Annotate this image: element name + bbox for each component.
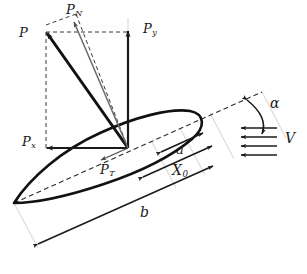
extension-lines	[14, 18, 286, 248]
label-tangential-force: PT	[100, 163, 115, 178]
freestream-flow-arrows	[241, 128, 277, 155]
label-velocity: V	[285, 131, 295, 145]
label-vertical-force: Py	[143, 22, 157, 37]
label-dimension-x0: X0	[172, 163, 188, 179]
angle-of-attack-arc	[247, 100, 263, 134]
force-construction-lines	[46, 14, 128, 148]
label-normal-force: PN	[66, 3, 82, 18]
diagram-canvas	[0, 0, 307, 274]
label-horizontal-force: Px	[22, 135, 36, 150]
label-angle-of-attack: α	[270, 96, 279, 110]
p-resultant-vector	[47, 33, 128, 148]
label-dimension-a: a	[176, 143, 184, 156]
airfoil-force-diagram: P PN Py Px PT α V a X0 b	[0, 0, 307, 274]
label-resultant-force: P	[19, 26, 28, 41]
label-dimension-b: b	[140, 205, 149, 219]
